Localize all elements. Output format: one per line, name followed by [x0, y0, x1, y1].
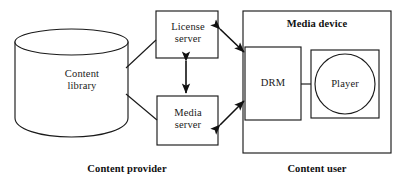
player-label: Player: [311, 78, 379, 90]
edge-license-server-to-drm: [220, 29, 244, 52]
edge-library-to-media-server: [126, 94, 157, 120]
content-library-label: Content library: [39, 68, 125, 93]
drm-architecture-diagram: Content library License server Media ser…: [0, 0, 402, 183]
edge-library-to-license-server: [126, 40, 156, 68]
content-user-label: Content user: [243, 163, 391, 174]
media-device-label: Media device: [243, 18, 391, 29]
edge-media-server-to-drm: [220, 101, 244, 125]
media-server-label: Media server: [157, 107, 219, 132]
drm-label: DRM: [245, 77, 301, 89]
content-provider-label: Content provider: [34, 163, 220, 174]
cylinder-top: [15, 29, 128, 55]
license-server-label: License server: [157, 21, 219, 46]
